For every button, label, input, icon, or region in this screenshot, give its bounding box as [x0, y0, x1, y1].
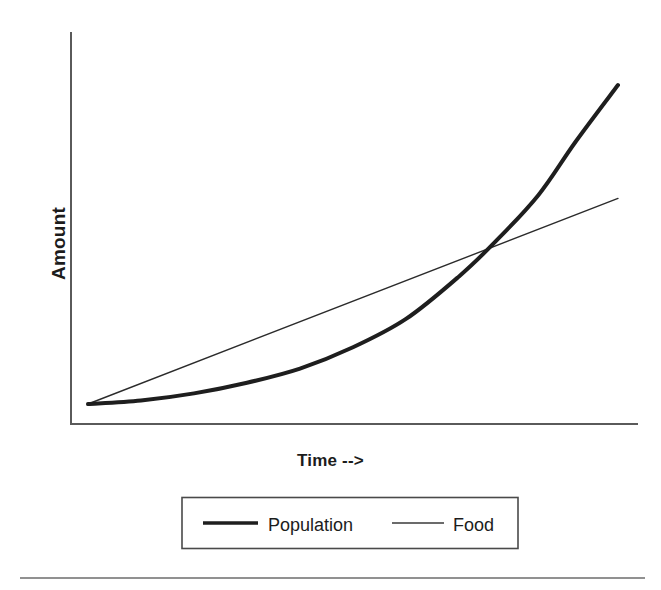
chart-axes	[71, 33, 637, 424]
legend-label-population: Population	[268, 515, 353, 536]
series-line-food	[88, 198, 618, 404]
chart-page: Amount Time --> Population Food	[0, 0, 661, 590]
x-axis-label: Time -->	[0, 451, 661, 471]
y-axis-label: Amount	[48, 207, 70, 280]
population-vs-food-line-chart	[0, 0, 661, 590]
series-line-population	[88, 85, 618, 404]
legend-label-food: Food	[453, 515, 494, 536]
chart-series-group	[88, 85, 618, 404]
